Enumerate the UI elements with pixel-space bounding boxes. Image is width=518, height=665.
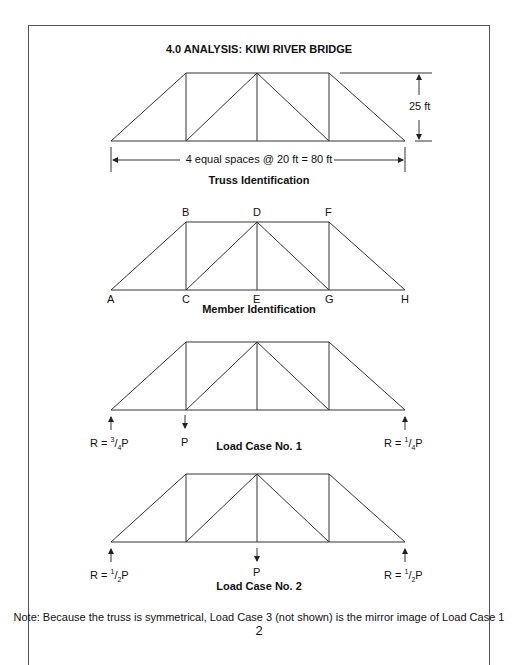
node-label-f: F xyxy=(325,206,332,218)
load-case-2-drawing xyxy=(111,474,405,562)
height-dimension-label: 25 ft xyxy=(409,100,430,112)
load-case-1-caption: Load Case No. 1 xyxy=(0,440,518,452)
node-label-d: D xyxy=(253,206,261,218)
lc2-left-reaction-num: 1 xyxy=(110,568,114,575)
truss-identification-caption: Truss Identification xyxy=(0,174,518,186)
symmetry-note: Note: Because the truss is symmetrical, … xyxy=(0,611,518,623)
lc2-right-reaction-num: 1 xyxy=(404,568,408,575)
page-number: 2 xyxy=(0,623,518,638)
page-title: 4.0 ANALYSIS: KIWI RIVER BRIDGE xyxy=(0,43,518,55)
span-dimension-text: 4 equal spaces @ 20 ft = 80 ft xyxy=(184,153,335,165)
member-identification-drawing xyxy=(111,222,405,290)
lc2-right-reaction-suffix: P xyxy=(415,569,422,581)
span-dimension-label: 4 equal spaces @ 20 ft = 80 ft xyxy=(0,153,518,165)
lc2-load-label: P xyxy=(253,566,260,578)
lc2-left-reaction-prefix: R = xyxy=(90,569,110,581)
load-case-2-caption: Load Case No. 2 xyxy=(0,580,518,592)
member-identification-caption: Member Identification xyxy=(0,303,518,315)
lc2-right-reaction-prefix: R = xyxy=(384,569,404,581)
node-label-b: B xyxy=(182,206,189,218)
load-case-1-drawing xyxy=(111,342,405,430)
lc2-left-reaction-suffix: P xyxy=(121,569,128,581)
